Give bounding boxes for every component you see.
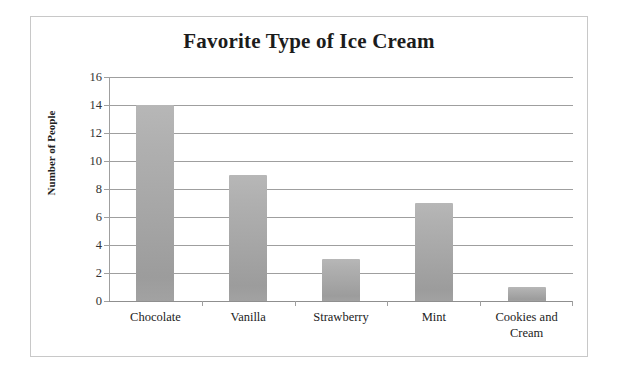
x-tick-mark	[572, 301, 573, 306]
y-tick-mark	[104, 273, 109, 274]
x-tick-mark	[295, 301, 296, 306]
y-tick-mark	[104, 217, 109, 218]
plot-area: 0246810121416 ChocolateVanillaStrawberry…	[109, 77, 573, 301]
y-tick-mark	[104, 189, 109, 190]
x-tick-mark	[202, 301, 203, 306]
x-category-label: Cookies and Cream	[480, 310, 573, 341]
x-tick-mark	[480, 301, 481, 306]
x-category-label: Chocolate	[109, 310, 202, 326]
bar	[322, 259, 360, 301]
y-tick-label: 12	[90, 126, 103, 141]
gridline	[109, 245, 573, 246]
y-tick-label: 0	[96, 294, 102, 309]
y-tick-label: 4	[96, 238, 102, 253]
chart-title: Favorite Type of Ice Cream	[31, 29, 587, 54]
x-category-label: Strawberry	[295, 310, 388, 326]
chart-frame: Favorite Type of Ice Cream Number of Peo…	[30, 16, 588, 357]
x-category-label: Vanilla	[202, 310, 295, 326]
y-tick-label: 2	[96, 266, 102, 281]
gridline	[109, 105, 573, 106]
bar	[508, 287, 546, 301]
gridline	[109, 301, 573, 302]
gridline	[109, 77, 573, 78]
bar	[229, 175, 267, 301]
x-category-label: Mint	[387, 310, 480, 326]
y-tick-mark	[104, 245, 109, 246]
bar	[415, 203, 453, 301]
y-tick-label: 6	[96, 210, 102, 225]
gridline	[109, 161, 573, 162]
gridline	[109, 217, 573, 218]
x-tick-mark	[387, 301, 388, 306]
y-tick-label: 10	[90, 154, 103, 169]
gridline	[109, 133, 573, 134]
y-tick-mark	[104, 301, 109, 302]
y-tick-label: 14	[90, 98, 103, 113]
y-tick-label: 16	[90, 70, 103, 85]
y-tick-mark	[104, 105, 109, 106]
y-axis-title: Number of People	[45, 93, 57, 213]
y-tick-label: 8	[96, 182, 102, 197]
y-tick-mark	[104, 161, 109, 162]
bar	[136, 105, 174, 301]
y-tick-mark	[104, 133, 109, 134]
gridline	[109, 189, 573, 190]
y-tick-mark	[104, 77, 109, 78]
